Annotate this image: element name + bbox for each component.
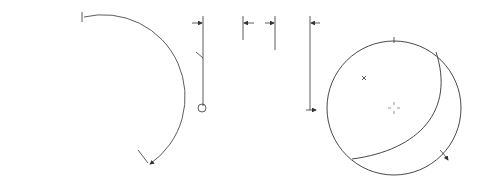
- stereonet-diagram: [0, 0, 477, 189]
- center-cross-c: [388, 102, 400, 114]
- angle-guides-b: [192, 16, 320, 110]
- arc-end-tick: [138, 150, 148, 163]
- pole-marker-b: [198, 104, 206, 112]
- pole-cross-c: [362, 76, 366, 80]
- rotation-arc-130: [84, 15, 185, 164]
- great-circle-c: [352, 52, 441, 159]
- primitive-circle-c: [327, 41, 461, 175]
